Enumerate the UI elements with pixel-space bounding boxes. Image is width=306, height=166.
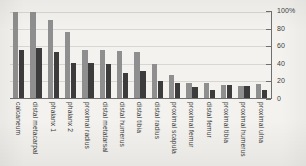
bar [204, 83, 209, 98]
x-axis-label: proximal tibia [223, 102, 230, 143]
bar-group [82, 12, 94, 98]
bar-group [186, 12, 198, 98]
y-axis-tick-label: 0 [277, 95, 281, 102]
x-axis-label: distal tibia [136, 102, 143, 133]
bar [106, 64, 111, 98]
bar [13, 12, 18, 98]
bar-group [117, 12, 129, 98]
bar-group [221, 12, 233, 98]
x-axis-label: proximal humerus [240, 102, 247, 157]
bar [123, 73, 128, 98]
bar [36, 48, 41, 98]
bar-group [100, 12, 112, 98]
x-axis-label: proximal scapula [171, 102, 178, 154]
bar [140, 71, 145, 98]
bar [88, 63, 93, 98]
bar-group [13, 12, 25, 98]
bar [210, 90, 215, 98]
x-axis-label: proximal ulna [258, 102, 265, 143]
bar [65, 32, 70, 98]
x-axis-label: distal humerus [119, 102, 126, 147]
x-axis-label: distal metatarsal [102, 102, 109, 153]
y-axis-tick-label: 60 [277, 42, 285, 49]
x-axis-label: distal femur [206, 102, 213, 138]
bar-group [65, 12, 77, 98]
bar-group [152, 12, 164, 98]
bar [82, 50, 87, 98]
bar [175, 83, 180, 98]
bar-group [169, 12, 181, 98]
bar [158, 81, 163, 98]
bar-group [134, 12, 146, 98]
bar [152, 64, 157, 98]
bar-group [256, 12, 268, 98]
bar [186, 83, 191, 98]
x-axis-label: distal metacarpal [32, 102, 39, 154]
bar [221, 85, 226, 98]
chart-figure: 020406080100% calcaneumdistal metacarpal… [0, 0, 306, 166]
bar [48, 20, 53, 98]
y-axis-line [271, 11, 272, 99]
bar [244, 86, 249, 98]
bar-group [30, 12, 42, 98]
bar [100, 50, 105, 98]
x-axis-labels: calcaneumdistal metacarpalphalanx 1phala… [10, 100, 270, 166]
bar [227, 85, 232, 98]
bar [134, 52, 139, 98]
bar [117, 51, 122, 98]
y-axis-tick-label: 100% [277, 7, 295, 14]
bar [169, 75, 174, 98]
bar [192, 87, 197, 98]
x-axis-label: calcaneum [15, 102, 22, 135]
bar [71, 63, 76, 98]
bar [54, 52, 59, 98]
y-axis-tick-label: 20 [277, 77, 285, 84]
x-axis-label: proximal radius [84, 102, 91, 149]
bar [19, 50, 24, 98]
x-axis-line [10, 98, 272, 99]
bar [256, 84, 261, 98]
bar [262, 90, 267, 98]
y-axis-tick-label: 80 [277, 25, 285, 32]
y-axis-tick-label: 40 [277, 60, 285, 67]
bar [238, 86, 243, 98]
bar-group [238, 12, 250, 98]
x-axis-label: phalanx 2 [67, 102, 74, 132]
bar-group [204, 12, 216, 98]
x-axis-label: phalanx 1 [50, 102, 57, 132]
bar-group [48, 12, 60, 98]
x-axis-label: proximal femur [188, 102, 195, 148]
bar [30, 12, 35, 98]
x-axis-label: distal radius [154, 102, 161, 139]
